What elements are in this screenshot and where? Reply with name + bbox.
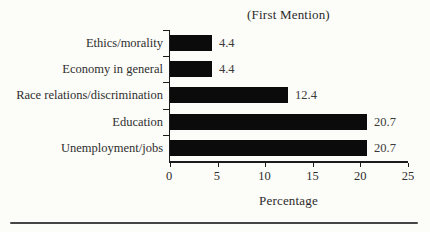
y-axis-tick <box>163 82 170 83</box>
y-axis-tick <box>163 56 170 57</box>
bar <box>170 140 367 156</box>
y-axis-tick <box>163 135 170 136</box>
y-axis-tick <box>163 109 170 110</box>
x-axis-tick <box>265 163 266 167</box>
x-axis-label: Percentage <box>169 193 408 209</box>
value-label: 20.7 <box>374 140 396 155</box>
bar <box>170 35 212 51</box>
x-axis-tick <box>360 163 361 167</box>
chart-title: (First Mention) <box>169 7 408 23</box>
x-tick-label: 15 <box>306 169 319 184</box>
x-tick-label: 10 <box>258 169 271 184</box>
x-tick-label: 20 <box>354 169 367 184</box>
value-label: 20.7 <box>374 114 396 129</box>
x-tick-label: 25 <box>402 169 415 184</box>
x-axis-tick <box>218 163 219 167</box>
category-label: Ethics/morality <box>3 36 163 51</box>
bar-row: Unemployment/jobs20.7 <box>170 135 408 161</box>
bar-chart-figure: (First Mention) Ethics/morality4.4Econom… <box>0 0 430 232</box>
x-axis-tick <box>313 163 314 167</box>
bar-row: Economy in general4.4 <box>170 56 408 82</box>
bottom-divider <box>10 222 418 224</box>
bar <box>170 61 212 77</box>
category-label: Economy in general <box>3 62 163 77</box>
category-label: Unemployment/jobs <box>3 140 163 155</box>
bar <box>170 87 288 103</box>
value-label: 4.4 <box>219 62 235 77</box>
bar-row: Race relations/discrimination12.4 <box>170 82 408 108</box>
bar <box>170 114 367 130</box>
x-tick-label: 0 <box>166 169 172 184</box>
x-axis-tick <box>170 163 171 167</box>
category-label: Race relations/discrimination <box>3 88 163 103</box>
bar-row: Education20.7 <box>170 109 408 135</box>
x-axis-tick-labels: 0510152025 <box>169 169 408 184</box>
x-axis-tick <box>408 163 409 167</box>
x-tick-label: 5 <box>214 169 220 184</box>
value-label: 4.4 <box>219 36 235 51</box>
bar-row: Ethics/morality4.4 <box>170 30 408 56</box>
plot-area: Ethics/morality4.4Economy in general4.4R… <box>169 30 408 163</box>
category-label: Education <box>3 114 163 129</box>
value-label: 12.4 <box>295 88 317 103</box>
y-axis-tick <box>163 30 170 31</box>
